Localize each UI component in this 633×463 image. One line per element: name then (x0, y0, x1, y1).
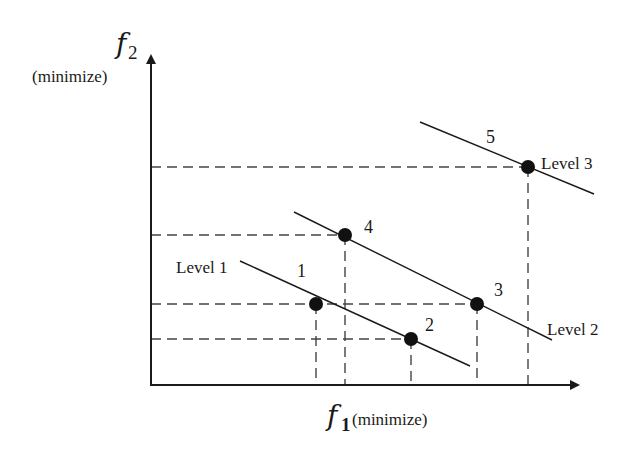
y-axis-note: (minimize) (32, 67, 108, 86)
x-axis-symbol: f (325, 399, 342, 432)
level-1-line (240, 261, 470, 366)
point-5 (521, 160, 535, 174)
solution-points (309, 160, 535, 346)
point-label-4: 4 (364, 217, 373, 237)
point-3 (470, 297, 484, 311)
level-1-label: Level 1 (176, 258, 227, 277)
level-2-label: Level 2 (547, 320, 598, 339)
level-2-line (294, 212, 552, 340)
level-3-label: Level 3 (541, 154, 592, 173)
point-label-1: 1 (297, 261, 306, 281)
x-axis-note: (minimize) (352, 410, 428, 429)
point-2 (404, 332, 418, 346)
y-axis-subscript: 2 (128, 42, 138, 63)
y-axis-label: f 2 (minimize) (32, 27, 138, 86)
point-label-2: 2 (425, 315, 434, 335)
point-label-5: 5 (486, 127, 495, 147)
point-1 (309, 297, 323, 311)
point-4 (338, 228, 352, 242)
pareto-levels-diagram: 1 2 3 4 5 Level 1 Level 2 Level 3 f 2 (m… (0, 0, 633, 463)
x-axis-subscript: 1 (341, 414, 351, 435)
point-label-3: 3 (494, 280, 503, 300)
x-axis-label: f 1 (minimize) (325, 399, 428, 435)
